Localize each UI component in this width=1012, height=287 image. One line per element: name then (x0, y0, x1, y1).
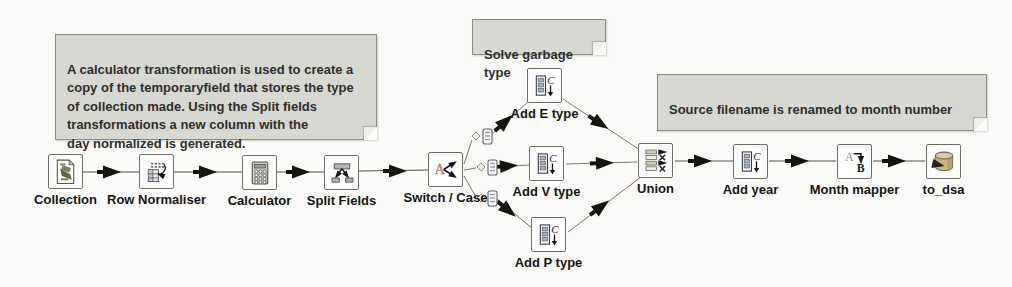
note-fold-corner (974, 118, 987, 131)
split-fields-icon (324, 155, 359, 190)
copy-rows-indicator[interactable] (477, 160, 497, 175)
row-normaliser-icon (139, 154, 174, 189)
mapper-from-glyph: A (844, 150, 853, 164)
step-label: Split Fields (307, 193, 376, 208)
constant-glyph: C (551, 222, 559, 234)
step-add-year[interactable]: C Add year (733, 144, 768, 179)
step-label: Calculator (228, 193, 292, 208)
transformation-canvas: A calculator transformation is used to c… (0, 0, 1012, 287)
add-constants-icon: C (733, 144, 768, 179)
step-label: Row Normaliser (107, 192, 206, 207)
note-source-filename[interactable]: Source filename is renamed to month numb… (657, 74, 987, 131)
step-label: to_dsa (923, 182, 965, 197)
constant-glyph: C (549, 151, 557, 163)
calculator-icon (242, 155, 277, 190)
mapper-to-glyph: B (856, 160, 864, 174)
table-output-icon (926, 144, 961, 179)
note-calculator-explanation[interactable]: A calculator transformation is used to c… (55, 34, 377, 140)
step-label: Add V type (513, 184, 581, 199)
step-month-mapper[interactable]: A B Month mapper (837, 144, 872, 179)
note-fold-corner (364, 127, 377, 140)
step-label: Switch / Case (404, 190, 488, 205)
add-constants-icon: C (531, 217, 566, 252)
step-add-e-type[interactable]: C Add E type (527, 68, 562, 103)
step-add-p-type[interactable]: C Add P type (531, 217, 566, 252)
step-label: Collection (34, 192, 97, 207)
step-label: Union (637, 181, 674, 196)
step-to-dsa[interactable]: to_dsa (926, 144, 961, 179)
step-add-v-type[interactable]: C Add V type (529, 146, 564, 181)
file-input-icon (48, 154, 83, 189)
note-fold-corner (593, 42, 606, 55)
value-mapper-icon: A B (837, 144, 872, 179)
note-text: A calculator transformation is used to c… (67, 62, 354, 151)
step-collection[interactable]: Collection (48, 154, 83, 189)
note-solve-garbage-type[interactable]: Solve garbage type (472, 19, 606, 55)
step-row-normaliser[interactable]: Row Normaliser (139, 154, 174, 189)
step-split-fields[interactable]: Split Fields (324, 155, 359, 190)
note-text: Source filename is renamed to month numb… (669, 102, 952, 117)
switch-case-icon: A (428, 152, 463, 187)
step-label: Month mapper (810, 182, 900, 197)
step-label: Add year (723, 182, 779, 197)
copy-rows-indicator[interactable] (472, 129, 492, 144)
step-label: Add E type (511, 106, 579, 121)
add-constants-icon: C (527, 68, 562, 103)
step-calculator[interactable]: Calculator (242, 155, 277, 190)
constant-glyph: C (547, 73, 555, 85)
step-union[interactable]: Union (638, 143, 673, 178)
unique-rows-icon (638, 143, 673, 178)
step-switch-case[interactable]: A Switch / Case (428, 152, 463, 187)
constant-glyph: C (753, 149, 761, 161)
add-constants-icon: C (529, 146, 564, 181)
step-label: Add P type (515, 255, 583, 270)
